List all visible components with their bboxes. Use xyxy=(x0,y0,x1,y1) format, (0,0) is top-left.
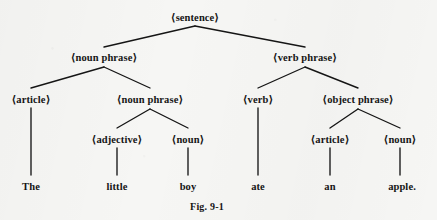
tree-edge-sentence-to-verb_phrase xyxy=(195,26,305,47)
tree-node-article_2: ⟨article⟩ xyxy=(310,134,349,146)
tree-node-word_apple: apple. xyxy=(388,181,416,193)
figure-caption: Fig. 9-1 xyxy=(190,201,224,212)
tree-edge-verb_phrase-to-object_phrase xyxy=(305,67,358,88)
tree-node-word_the: The xyxy=(22,181,40,193)
tree-node-sentence: ⟨sentence⟩ xyxy=(171,12,220,24)
tree-node-noun_2: ⟨noun⟩ xyxy=(384,134,417,146)
tree-node-article_1: ⟨article⟩ xyxy=(11,94,50,106)
tree-node-noun_1: ⟨noun⟩ xyxy=(172,134,205,146)
tree-node-verb: ⟨verb⟩ xyxy=(243,94,274,106)
tree-node-noun_phrase_1: ⟨noun phrase⟩ xyxy=(71,52,138,64)
tree-node-adjective: ⟨adjective⟩ xyxy=(92,134,143,146)
tree-node-object_phrase: ⟨object phrase⟩ xyxy=(322,94,393,106)
tree-edge-sentence-to-noun_phrase_1 xyxy=(104,26,195,47)
tree-node-word_an: an xyxy=(324,181,335,193)
tree-edge-verb_phrase-to-verb xyxy=(258,67,305,88)
tree-edges-layer xyxy=(0,0,437,220)
tree-edge-noun_phrase_2-to-adjective xyxy=(117,109,150,128)
tree-node-word_little: little xyxy=(106,181,127,193)
tree-edge-noun_phrase_1-to-noun_phrase_2 xyxy=(104,67,150,88)
tree-node-word_ate: ate xyxy=(251,181,265,193)
parse-tree-figure: ⟨sentence⟩⟨noun phrase⟩⟨verb phrase⟩⟨art… xyxy=(0,0,437,220)
tree-edge-object_phrase-to-article_2 xyxy=(330,109,358,128)
tree-node-word_boy: boy xyxy=(180,181,197,193)
tree-edge-noun_phrase_1-to-article_1 xyxy=(31,67,104,88)
tree-edge-noun_phrase_2-to-noun_1 xyxy=(150,109,188,128)
tree-node-verb_phrase: ⟨verb phrase⟩ xyxy=(273,52,337,64)
tree-edge-object_phrase-to-noun_2 xyxy=(358,109,400,128)
tree-node-noun_phrase_2: ⟨noun phrase⟩ xyxy=(117,94,184,106)
